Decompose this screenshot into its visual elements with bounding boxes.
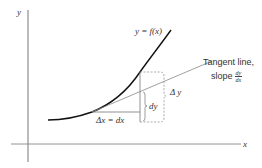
- tangent-line-label: Tangent line,: [203, 58, 254, 67]
- curve-label: y = f(x): [135, 27, 162, 36]
- y-axis-label: y: [17, 8, 21, 17]
- x-axis-label: x: [243, 140, 247, 149]
- diagram-graphics: [0, 0, 262, 168]
- slope-denominator: dx: [235, 77, 243, 83]
- dy-label: dy: [149, 102, 158, 111]
- slope-label: slope: [211, 71, 233, 81]
- diagram-canvas: y x y = f(x) Δx = dx dy Δ y Tangent line…: [0, 0, 262, 168]
- dy-brace: [143, 92, 147, 121]
- slope-fraction: dydx: [235, 70, 243, 83]
- delta-y-dashed-bracket: [140, 72, 166, 122]
- delta-y-label: Δ y: [170, 88, 181, 97]
- slope-numerator: dy: [235, 70, 243, 77]
- slope-annotation: slopedydx: [211, 70, 242, 83]
- dx-label: Δx = dx: [96, 116, 124, 125]
